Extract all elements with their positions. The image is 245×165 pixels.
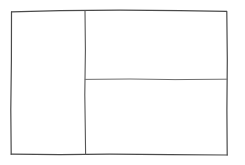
right-bottom-pane[interactable]: [85, 79, 227, 155]
horizontal-divider: [85, 79, 227, 80]
frame-left-edge: [11, 12, 12, 154]
vertical-divider: [85, 11, 86, 155]
wireframe-sketch: [0, 0, 245, 165]
wireframe-canvas: [0, 0, 245, 165]
left-column-pane[interactable]: [11, 11, 85, 154]
right-top-pane[interactable]: [85, 11, 227, 79]
frame-right-edge: [227, 11, 228, 155]
